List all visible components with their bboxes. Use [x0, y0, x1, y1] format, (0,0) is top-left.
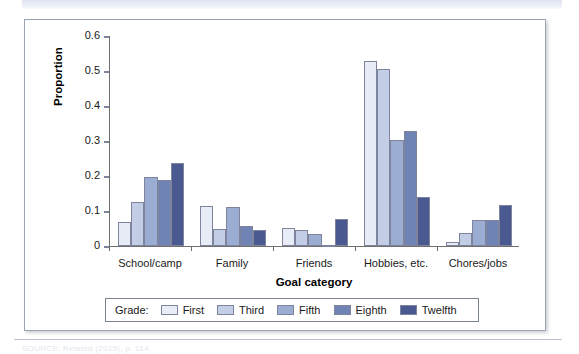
bar — [459, 233, 472, 246]
y-tick: 0.4 — [104, 106, 109, 107]
y-tick-mark — [104, 141, 109, 143]
y-tick-label: 0 — [94, 239, 100, 252]
bar — [322, 245, 335, 247]
bar — [486, 220, 499, 246]
y-tick-mark — [104, 211, 109, 213]
legend-entry[interactable]: Third — [217, 304, 264, 316]
bar — [118, 222, 131, 247]
legend-swatch — [334, 305, 351, 315]
bar — [226, 207, 239, 246]
bar — [417, 197, 430, 246]
bar — [282, 228, 295, 246]
legend-label: Fifth — [299, 304, 320, 316]
y-tick-label: 0.2 — [85, 169, 100, 182]
y-tick: 0.5 — [104, 71, 109, 72]
legend-entry[interactable]: Fifth — [277, 304, 320, 316]
x-category-label: Family — [191, 256, 273, 270]
figure-frame: 00.10.20.30.40.50.6 School/campFamilyFri… — [24, 19, 546, 331]
x-axis-title: Goal category — [109, 276, 519, 288]
legend-entry[interactable]: Twelfth — [400, 304, 457, 316]
y-tick-label: 0.1 — [85, 204, 100, 217]
y-axis-title: Proportion — [52, 47, 64, 106]
y-tick-label: 0.6 — [85, 29, 100, 42]
bar — [213, 229, 226, 247]
top-banner-strip — [22, 0, 562, 9]
bar — [364, 61, 377, 247]
legend: Grade: FirstThirdFifthEighthTwelfth — [105, 298, 479, 322]
legend-entries: FirstThirdFifthEighthTwelfth — [161, 304, 470, 316]
x-category-label: Hobbies, etc. — [355, 256, 437, 270]
bar — [308, 234, 321, 246]
bar — [377, 69, 390, 246]
bar — [295, 230, 308, 246]
y-tick-label: 0.3 — [85, 134, 100, 147]
bar — [404, 131, 417, 247]
legend-label: Twelfth — [422, 304, 457, 316]
y-tick-label: 0.4 — [85, 99, 100, 112]
y-tick: 0.2 — [104, 176, 109, 177]
y-tick-mark — [104, 71, 109, 73]
legend-entry[interactable]: First — [161, 304, 204, 316]
bar — [144, 177, 157, 246]
y-tick: 0.6 — [104, 36, 109, 37]
bar — [472, 220, 485, 246]
bar — [253, 230, 266, 246]
source-caption: SOURCE: Related (2015), p. 114. — [22, 344, 151, 353]
bottom-divider — [14, 339, 562, 340]
x-tick-mark — [273, 246, 274, 251]
bar — [131, 202, 144, 246]
x-tick-mark — [109, 246, 110, 251]
legend-title: Grade: — [115, 304, 149, 316]
legend-swatch — [161, 305, 178, 315]
x-tick-mark — [191, 246, 192, 251]
bar — [200, 206, 213, 246]
legend-label: First — [183, 304, 204, 316]
legend-label: Eighth — [356, 304, 387, 316]
legend-label: Third — [239, 304, 264, 316]
legend-swatch — [277, 305, 294, 315]
y-tick-mark — [104, 36, 109, 38]
x-tick-mark — [355, 246, 356, 251]
x-tick-mark — [437, 246, 438, 251]
x-category-label: Chores/jobs — [437, 256, 519, 270]
x-category-label: School/camp — [109, 256, 191, 270]
bar — [446, 242, 459, 246]
legend-swatch — [217, 305, 234, 315]
y-tick-label: 0.5 — [85, 64, 100, 77]
bar — [499, 205, 512, 246]
bar — [335, 219, 348, 246]
legend-swatch — [400, 305, 417, 315]
legend-entry[interactable]: Eighth — [334, 304, 387, 316]
x-axis-line — [109, 246, 519, 247]
bar — [171, 163, 184, 246]
x-category-label: Friends — [273, 256, 355, 270]
y-tick-mark — [104, 176, 109, 178]
y-axis-line — [109, 36, 110, 246]
bar — [240, 226, 253, 246]
bar — [158, 180, 171, 246]
plot-area: 00.10.20.30.40.50.6 School/campFamilyFri… — [25, 20, 547, 332]
y-tick: 0.1 — [104, 211, 109, 212]
y-tick-mark — [104, 106, 109, 108]
bar — [390, 140, 403, 246]
y-tick: 0.3 — [104, 141, 109, 142]
